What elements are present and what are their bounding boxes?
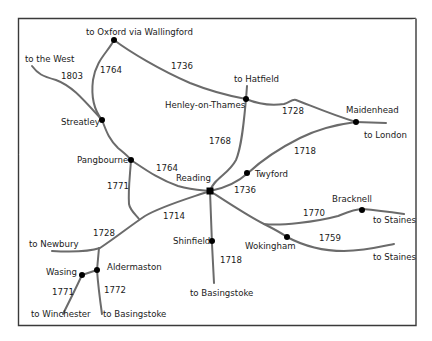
label-henley: Henley-on-Thames	[165, 100, 246, 110]
label-bracknell: Bracknell	[332, 194, 372, 204]
label-wasing: Wasing	[46, 267, 77, 277]
year-oxford-streatley: 1764	[100, 65, 122, 75]
node-twyford	[244, 170, 250, 176]
label-to-west: to the West	[25, 54, 75, 64]
year-reading-basingstoke: 1718	[220, 255, 242, 265]
road-maidenhead-london	[356, 122, 386, 123]
year-newbury-west: 1728	[93, 228, 115, 238]
year-west-streatley: 1803	[61, 71, 83, 81]
label-maidenhead: Maidenhead	[346, 105, 399, 115]
label-to-newbury: to Newbury	[29, 239, 79, 249]
node-pangbourne	[128, 157, 134, 163]
node-streatley	[99, 117, 105, 123]
year-aldermaston-basingstoke: 1772	[104, 285, 126, 295]
label-to-winchester: to Winchester	[31, 309, 91, 319]
label-to-staines-north: to Staines	[373, 215, 417, 225]
label-twyford: Twyford	[254, 169, 288, 179]
year-twyford-reading: 1736	[234, 185, 256, 195]
label-pangbourne: Pangbourne	[77, 155, 128, 165]
year-pangbourne-south: 1771	[107, 181, 129, 191]
node-oxford	[111, 37, 117, 43]
year-henley-maidenhead: 1728	[282, 106, 304, 116]
year-hatfield-reading: 1768	[209, 136, 231, 146]
node-maidenhead	[353, 119, 359, 125]
year-pangbourne-reading: 1764	[156, 163, 178, 173]
year-wokingham-staines: 1759	[319, 233, 341, 243]
label-aldermaston: Aldermaston	[107, 262, 162, 272]
label-to-hatfield: to Hatfield	[234, 74, 279, 84]
year-wasing-winchester: 1771	[52, 287, 74, 297]
year-oxford-henley: 1736	[171, 61, 193, 71]
year-reading-bracknell: 1770	[303, 208, 325, 218]
label-to-london: to London	[364, 130, 407, 140]
node-wasing	[79, 272, 85, 278]
label-wokingham: Wokingham	[245, 241, 296, 251]
label-streatley: Streatley	[61, 117, 100, 127]
label-reading: Reading	[176, 173, 211, 183]
year-reading-newbury: 1714	[163, 211, 185, 221]
label-to-basingstoke-south: to Basingstoke	[190, 288, 253, 298]
year-maidenhead-twyford: 1718	[294, 146, 316, 156]
node-bracknell	[359, 207, 365, 213]
node-wokingham	[284, 234, 290, 240]
label-to-staines-south: to Staines	[373, 252, 417, 262]
label-shinfield: Shinfield	[173, 236, 210, 246]
label-to-basingstoke-sw: to Basingstoke	[103, 309, 166, 319]
label-to-oxford: to Oxford via Wallingford	[86, 27, 193, 37]
turnpike-map: Reading Henley-on-Thames Maidenhead Stre…	[0, 0, 432, 341]
node-reading	[207, 188, 214, 195]
node-aldermaston	[94, 267, 100, 273]
